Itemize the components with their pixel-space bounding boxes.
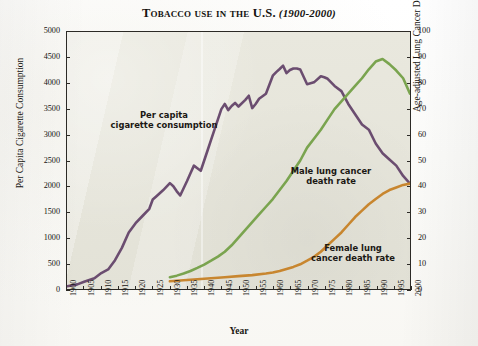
y-right-tick-mark bbox=[407, 135, 411, 136]
x-tick-label: 1995 bbox=[397, 280, 406, 296]
chart-title-main: Tobacco use in the U.S. bbox=[142, 6, 276, 20]
y-left-tick-mark bbox=[66, 31, 70, 32]
annotation-consumption: Per capita cigarette consumption bbox=[104, 110, 224, 131]
x-tick-label: 1935 bbox=[190, 280, 199, 296]
y-left-tick-label: 500 bbox=[26, 259, 60, 268]
y-right-tick-label: 10 bbox=[418, 259, 452, 268]
y-right-tick-label: 20 bbox=[418, 233, 452, 242]
y-left-tick-label: 4000 bbox=[26, 78, 60, 87]
x-tick-label: 1985 bbox=[363, 280, 372, 296]
chart-title: Tobacco use in the U.S. (1900-2000) bbox=[0, 6, 478, 21]
y-left-tick-mark bbox=[66, 186, 70, 187]
x-tick-label: 1945 bbox=[225, 280, 234, 296]
annotation-male: Male lung cancer death rate bbox=[275, 166, 387, 187]
x-tick-label: 1925 bbox=[156, 280, 165, 296]
y-left-tick-label: 4500 bbox=[26, 52, 60, 61]
x-tick-mark bbox=[187, 286, 188, 290]
x-tick-mark bbox=[239, 286, 240, 290]
y-right-tick-mark bbox=[407, 109, 411, 110]
x-tick-mark bbox=[411, 286, 412, 290]
x-tick-label: 1980 bbox=[345, 280, 354, 296]
annotation-female: Female lung cancer death rate bbox=[300, 243, 406, 264]
y-left-tick-label: 0 bbox=[26, 285, 60, 294]
x-tick-mark bbox=[152, 286, 153, 290]
x-tick-mark bbox=[221, 286, 222, 290]
y-right-tick-label: 50 bbox=[418, 156, 452, 165]
y-right-tick-label: 60 bbox=[418, 130, 452, 139]
x-tick-mark bbox=[342, 286, 343, 290]
y-right-tick-mark bbox=[407, 212, 411, 213]
y-left-tick-mark bbox=[66, 161, 70, 162]
y-left-tick-label: 3000 bbox=[26, 130, 60, 139]
y-left-tick-label: 2500 bbox=[26, 156, 60, 165]
y-left-tick-mark bbox=[66, 212, 70, 213]
y-right-tick-label: 70 bbox=[418, 104, 452, 113]
y-right-tick-label: 30 bbox=[418, 207, 452, 216]
x-tick-mark bbox=[170, 286, 171, 290]
x-tick-label: 1915 bbox=[121, 280, 130, 296]
y-left-tick-mark bbox=[66, 57, 70, 58]
chart-figure: Tobacco use in the U.S. (1900-2000) Per … bbox=[0, 0, 478, 346]
y-right-tick-label: 100 bbox=[418, 26, 452, 35]
y-right-tick-label: 40 bbox=[418, 181, 452, 190]
y-right-tick-mark bbox=[407, 83, 411, 84]
x-tick-label: 1960 bbox=[276, 280, 285, 296]
y-left-tick-mark bbox=[66, 83, 70, 84]
x-tick-mark bbox=[118, 286, 119, 290]
x-tick-label: 1990 bbox=[380, 280, 389, 296]
y-left-tick-label: 5000 bbox=[26, 26, 60, 35]
x-tick-label: 1955 bbox=[259, 280, 268, 296]
y-right-tick-mark bbox=[407, 238, 411, 239]
x-tick-label: 1910 bbox=[104, 280, 113, 296]
y-left-tick-label: 3500 bbox=[26, 104, 60, 113]
x-tick-label: 1940 bbox=[207, 280, 216, 296]
y-left-tick-label: 1500 bbox=[26, 207, 60, 216]
x-tick-mark bbox=[377, 286, 378, 290]
x-tick-mark bbox=[83, 286, 84, 290]
chart-title-range: (1900-2000) bbox=[279, 7, 336, 19]
x-tick-mark bbox=[204, 286, 205, 290]
y-left-tick-mark bbox=[66, 109, 70, 110]
x-tick-label: 1950 bbox=[242, 280, 251, 296]
y-right-tick-mark bbox=[407, 161, 411, 162]
line-female-lung-cancer bbox=[170, 184, 410, 282]
x-tick-label: 1900 bbox=[69, 280, 78, 296]
y-left-tick-label: 1000 bbox=[26, 233, 60, 242]
x-tick-label: 2000 bbox=[414, 280, 423, 296]
x-tick-mark bbox=[101, 286, 102, 290]
x-tick-label: 1920 bbox=[138, 280, 147, 296]
x-tick-mark bbox=[394, 286, 395, 290]
y-right-tick-label: 90 bbox=[418, 52, 452, 61]
y-right-tick-mark bbox=[407, 264, 411, 265]
x-tick-label: 1930 bbox=[173, 280, 182, 296]
x-tick-label: 1965 bbox=[294, 280, 303, 296]
y-axis-left-title: Per Capita Cigarette Consumption bbox=[15, 23, 25, 223]
x-tick-label: 1970 bbox=[311, 280, 320, 296]
y-left-tick-mark bbox=[66, 135, 70, 136]
x-tick-mark bbox=[273, 286, 274, 290]
y-right-tick-mark bbox=[407, 186, 411, 187]
y-right-tick-mark bbox=[407, 290, 411, 291]
x-tick-mark bbox=[290, 286, 291, 290]
x-tick-label: 1905 bbox=[87, 280, 96, 296]
x-tick-mark bbox=[359, 286, 360, 290]
x-tick-mark bbox=[325, 286, 326, 290]
y-left-tick-label: 2000 bbox=[26, 181, 60, 190]
x-tick-mark bbox=[135, 286, 136, 290]
x-tick-mark bbox=[256, 286, 257, 290]
y-right-tick-mark bbox=[407, 31, 411, 32]
y-right-tick-label: 80 bbox=[418, 78, 452, 87]
x-tick-label: 1975 bbox=[328, 280, 337, 296]
y-right-tick-mark bbox=[407, 57, 411, 58]
x-tick-mark bbox=[66, 286, 67, 290]
y-left-tick-mark bbox=[66, 264, 70, 265]
y-left-tick-mark bbox=[66, 238, 70, 239]
y-right-tick-label: 0 bbox=[418, 285, 452, 294]
x-axis-title: Year bbox=[0, 326, 478, 336]
x-tick-mark bbox=[308, 286, 309, 290]
